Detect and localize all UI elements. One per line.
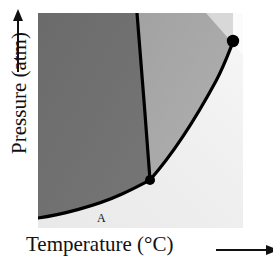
phase-diagram-figure: Pressure (atm) bbox=[0, 0, 273, 270]
point-a-label: A bbox=[97, 211, 106, 226]
phase-diagram-svg bbox=[38, 13, 243, 228]
y-axis-label: Pressure (atm) bbox=[4, 26, 34, 160]
plot-area: A bbox=[38, 13, 243, 228]
right-arrow-icon bbox=[216, 242, 273, 258]
x-axis-label: Temperature (°C) bbox=[26, 232, 173, 257]
triple-point-marker bbox=[145, 175, 155, 185]
critical-point-marker bbox=[227, 35, 239, 47]
x-axis-group: Temperature (°C) bbox=[26, 232, 273, 270]
y-axis-group: Pressure (atm) bbox=[0, 0, 38, 230]
